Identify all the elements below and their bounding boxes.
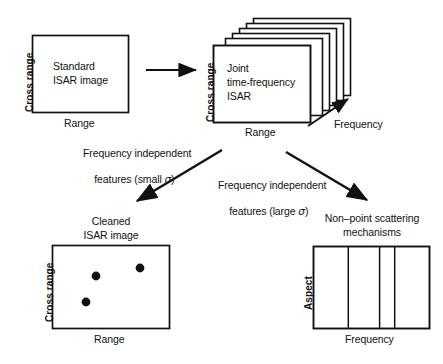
scatterer-dot [92,272,101,281]
small-sigma-label-line2: features (small σ) [83,161,174,198]
non-point-scattering-box [314,247,430,329]
cleaned-isar-y-axis-label: Cross range [44,263,56,322]
standard-isar-label-line1: Standard [53,60,95,72]
non-point-y-axis-label: Aspect [303,276,315,310]
isar-flow-diagram: Cross range Standard ISAR image Range Cr… [0,0,443,364]
large-sigma-prefix: features (large [229,205,298,217]
small-sigma-prefix: features (small [94,173,164,185]
large-sigma-label-line1: Frequency independent [218,179,326,191]
scatterer-dot [136,264,145,273]
cleaned-isar-box [53,246,170,329]
joint-isar-label-line3: ISAR [227,90,251,102]
joint-isar-depth-axis-label: Frequency [334,118,383,130]
small-sigma-suffix: ) [171,173,174,185]
small-sigma-label-line1: Frequency independent [83,147,191,159]
scatterer-dot [82,298,91,307]
standard-isar-label-line2: ISAR image [53,74,108,86]
joint-isar-label-line1: Joint [227,62,249,74]
joint-isar-label-line2: time-frequency [227,76,295,88]
standard-isar-y-axis-label: Cross range [24,53,36,112]
cleaned-isar-caption-line1: Cleaned [52,215,170,227]
non-point-caption-line1: Non–point scattering [305,212,439,224]
joint-isar-y-axis-label: Cross range [205,63,217,122]
non-point-caption-line2: mechanisms [305,226,439,238]
large-sigma-label-line2: features (large σ) [218,193,308,230]
joint-isar-x-axis-label: Range [245,126,275,138]
scattering-outer-rect [314,247,430,329]
cleaned-isar-caption-line2: ISAR image [52,229,170,241]
standard-isar-x-axis-label: Range [64,117,94,129]
non-point-x-axis-label: Frequency [345,333,394,345]
cleaned-isar-x-axis-label: Range [94,333,124,345]
